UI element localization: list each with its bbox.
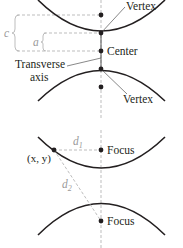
d1-label: d1 [73, 135, 83, 150]
transverse-label-line1: Transverse [15, 58, 65, 70]
center-label: Center [107, 45, 138, 57]
focus-dot-bottom [99, 85, 104, 90]
focus-dot-lower [99, 219, 104, 224]
hyperbola-upper-branch-2 [38, 137, 165, 168]
focus-lower-label: Focus [107, 215, 135, 227]
vertex-bottom-leader [101, 69, 127, 94]
vertex-top-label: Vertex [126, 0, 156, 12]
c-label: c [4, 27, 9, 39]
center-dot [99, 49, 104, 54]
hyperbola-foci-diagram: d1 d2 (x, y) Focus Focus [27, 130, 165, 248]
c-brace [12, 15, 19, 51]
focus-upper-label: Focus [107, 144, 135, 156]
point-xy-label: (x, y) [27, 152, 51, 165]
hyperbola-parts-diagram: c a Vertex Center Transverse axis Vertex [4, 0, 165, 118]
vertex-dot-bottom [99, 67, 104, 72]
focus-dot-upper [99, 148, 104, 153]
transverse-label-line2: axis [30, 71, 49, 83]
hyperbola-figure: c a Vertex Center Transverse axis Vertex [0, 0, 183, 248]
d2-label: d2 [62, 178, 72, 193]
vertex-dot-top [99, 31, 104, 36]
a-brace [41, 33, 46, 51]
transverse-leader [67, 58, 101, 66]
a-label: a [33, 36, 39, 48]
point-xy-dot [52, 148, 57, 153]
focus-dot-top [99, 13, 104, 18]
vertex-bottom-label: Vertex [123, 93, 153, 105]
